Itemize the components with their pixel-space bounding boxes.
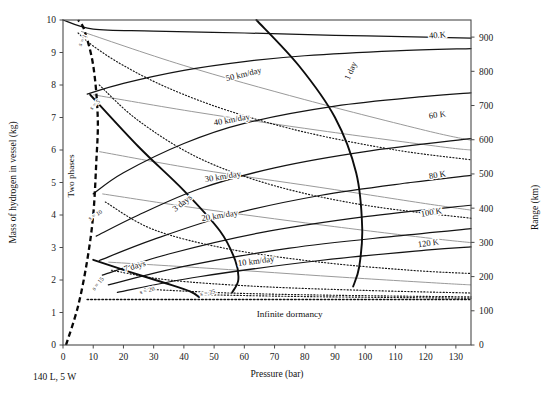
x-tick-label: 90: [330, 352, 340, 362]
y2-tick-label: 500: [479, 169, 494, 179]
y-tick-label: 1: [51, 308, 56, 318]
y-tick-label: 0: [51, 340, 56, 350]
chart-svg: 0102030405060708090100110120130 01234567…: [0, 0, 553, 406]
y-tick-label: 4: [51, 210, 56, 220]
range-speed-line: [99, 152, 471, 211]
x-tick-label: 100: [358, 352, 373, 362]
curve-label: 40 km/day: [213, 111, 251, 127]
y2-tick-label: 900: [479, 33, 494, 43]
curve-label: 100 K: [420, 205, 443, 218]
range-speed-line: [93, 95, 471, 150]
y2-tick-label: 400: [479, 204, 494, 214]
x-tick-label: 0: [61, 352, 66, 362]
x-tick-label: 30: [149, 352, 159, 362]
y-axis-ticks: 012345678910: [47, 15, 64, 350]
y-tick-label: 10: [47, 15, 57, 25]
isotherm-line: [63, 20, 471, 38]
x-tick-label: 40: [179, 352, 189, 362]
y2-axis-title: Range (km): [530, 185, 541, 230]
x-tick-label: 10: [88, 352, 98, 362]
figure-caption: 140 L, 5 W: [33, 372, 76, 382]
y-tick-label: 5: [51, 178, 56, 188]
y-tick-label: 6: [51, 145, 56, 155]
x-tick-label: 80: [300, 352, 310, 362]
y2-tick-label: 300: [479, 238, 494, 248]
x-tick-label: 110: [388, 352, 402, 362]
dormancy-isoline: [78, 33, 471, 160]
x-tick-label: 120: [419, 352, 434, 362]
isotherm-line: [87, 49, 471, 95]
dormancy-day-curve: [256, 20, 362, 287]
x-axis-title: Pressure (bar): [250, 369, 303, 380]
range-speed-lines-layer: [81, 31, 471, 285]
curve-label: s = 10: [87, 208, 104, 222]
y2-axis-ticks: 0100200300400500600700800900: [471, 33, 494, 351]
curve-label: 60 K: [428, 108, 447, 120]
curve-label: 50 km/day: [225, 65, 264, 84]
x-axis-ticks: 0102030405060708090100110120130: [61, 345, 464, 362]
y-tick-label: 3: [51, 243, 56, 253]
y2-tick-label: 100: [479, 306, 494, 316]
y-tick-label: 9: [51, 48, 56, 58]
x-tick-label: 130: [449, 352, 464, 362]
curve-label: s = 5: [88, 98, 102, 111]
x-tick-label: 70: [270, 352, 280, 362]
y2-tick-label: 700: [479, 101, 494, 111]
curve-label: s = 25: [200, 287, 216, 297]
curve-label: 40 K: [429, 29, 448, 41]
curve-annotations: s = 1s = 1s = 5s = 5s = 10s = 10s = 15s …: [66, 29, 448, 319]
y-axis-title: Mass of hydrogen in vessel (kg): [8, 121, 19, 243]
y2-tick-label: 0: [479, 340, 484, 350]
y2-tick-label: 800: [479, 67, 494, 77]
y-tick-label: 2: [51, 275, 56, 285]
y2-tick-label: 600: [479, 135, 494, 145]
curve-label: s = 20: [139, 285, 155, 295]
x-tick-label: 60: [240, 352, 250, 362]
x-tick-label: 20: [119, 352, 129, 362]
curve-label: Infinite dormancy: [257, 309, 323, 319]
curve-label: Two phases: [66, 154, 76, 197]
y-tick-label: 7: [51, 113, 56, 123]
x-tick-label: 50: [209, 352, 219, 362]
chart-figure: 0102030405060708090100110120130 01234567…: [0, 0, 553, 406]
curve-label: s = 15: [90, 275, 105, 291]
isotherm-line: [99, 175, 471, 260]
curve-label: 7 days: [123, 258, 148, 274]
curve-label: 80 K: [428, 168, 447, 181]
curve-label: 1 day: [342, 59, 359, 81]
curve-label: 120 K: [417, 236, 440, 249]
y2-tick-label: 200: [479, 272, 494, 282]
y-tick-label: 8: [51, 80, 56, 90]
